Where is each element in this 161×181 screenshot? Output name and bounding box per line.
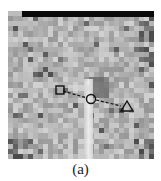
marker-overlay — [0, 0, 161, 181]
square-marker-icon — [56, 86, 64, 94]
circle-marker-icon — [87, 95, 96, 104]
figure-caption: (a) — [0, 161, 161, 178]
dashed-connector-2 — [96, 100, 121, 106]
dashed-connector-1 — [63, 91, 87, 98]
triangle-marker-icon — [121, 101, 133, 111]
